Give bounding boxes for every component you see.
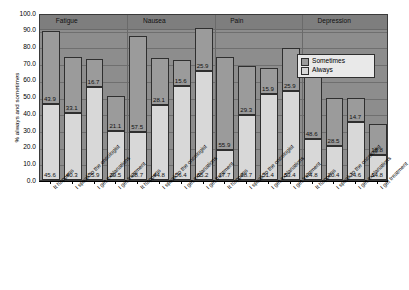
group-label-depression: Depression xyxy=(317,17,350,24)
bar-value-label-sometimes: 43.9 xyxy=(44,96,56,102)
legend-label-sometimes: Sometimes xyxy=(312,58,345,65)
legend-swatch-always-icon xyxy=(301,67,309,75)
x-axis-tick-mark xyxy=(72,181,73,184)
x-axis-tick-mark xyxy=(312,181,313,184)
x-axis-tick-mark xyxy=(94,181,95,184)
group-label-pain: Pain xyxy=(230,17,243,24)
bar-value-label-sometimes: 15.6 xyxy=(175,78,187,84)
stacked-bar: 44.828.1 xyxy=(151,58,169,180)
x-axis-tick-mark xyxy=(290,181,291,184)
y-axis-tick-label: 0.0 xyxy=(6,178,36,185)
bar-value-label-sometimes: 16.7 xyxy=(88,79,100,85)
y-axis-tick-label: 10.0 xyxy=(6,161,36,168)
bar-segment-sometimes: 33.1 xyxy=(64,57,82,112)
group-label-nausea: Nausea xyxy=(143,17,166,24)
x-axis-tick-mark xyxy=(246,181,247,184)
bar-segment-sometimes: 16.7 xyxy=(86,59,104,87)
bar-value-label-always: 45.6 xyxy=(44,172,56,178)
bar-value-label-sometimes: 48.6 xyxy=(306,131,318,137)
bar-value-label-sometimes: 15.9 xyxy=(262,86,274,92)
y-axis-tick-label: 40.0 xyxy=(6,111,36,118)
bar-segment-sometimes: 15.9 xyxy=(260,68,278,95)
x-axis-tick-mark xyxy=(181,181,182,184)
y-axis-tick-label: 30.0 xyxy=(6,128,36,135)
y-axis-tick-label: 20.0 xyxy=(6,144,36,151)
y-axis-tick-labels: 100.090.080.070.060.050.040.030.020.010.… xyxy=(3,0,36,290)
y-axis-tick-label: 70.0 xyxy=(6,61,36,68)
x-axis-tick-mark xyxy=(159,181,160,184)
y-axis-tick-label: 80.0 xyxy=(6,44,36,51)
x-axis-tick-mark xyxy=(137,181,138,184)
bar-segment-sometimes: 15.6 xyxy=(173,60,191,86)
x-axis-tick-mark xyxy=(115,181,116,184)
bar-value-label-sometimes: 57.5 xyxy=(131,124,143,130)
bar-segment-sometimes: 28.5 xyxy=(326,98,344,146)
legend-item-always: Always xyxy=(301,66,371,75)
bar-segment-sometimes: 25.9 xyxy=(195,28,213,71)
bar-segment-sometimes: 21.1 xyxy=(107,96,125,131)
bar-value-label-sometimes: 55.9 xyxy=(218,142,230,148)
gridline xyxy=(40,32,387,33)
bar-segment-sometimes: 43.9 xyxy=(42,31,60,104)
stacked-bar: 40.333.1 xyxy=(64,57,82,180)
bar-segment-sometimes: 28.1 xyxy=(151,58,169,105)
bar-segment-sometimes: 57.5 xyxy=(129,36,147,132)
chart-legend: Sometimes Always xyxy=(297,54,375,78)
x-axis-tick-mark xyxy=(355,181,356,184)
legend-swatch-sometimes-icon xyxy=(301,58,309,66)
bar-value-label-sometimes: 14.7 xyxy=(349,114,361,120)
bar-segment-sometimes: 14.7 xyxy=(347,98,365,123)
bar-value-label-sometimes: 25.9 xyxy=(197,63,209,69)
bar-value-label-sometimes: 25.9 xyxy=(284,83,296,89)
y-axis-tick-label: 50.0 xyxy=(6,94,36,101)
x-axis-tick-mark xyxy=(203,181,204,184)
bar-segment-always: 45.6 xyxy=(42,104,60,180)
bar-value-label-sometimes: 33.1 xyxy=(66,105,78,111)
x-axis-tick-mark xyxy=(268,181,269,184)
y-axis-tick-label: 100.0 xyxy=(6,11,36,18)
x-axis-tick-mark xyxy=(50,181,51,184)
bar-value-label-sometimes: 28.1 xyxy=(153,97,165,103)
bar-segment-sometimes: 55.9 xyxy=(216,57,234,150)
bar-value-label-sometimes: 21.1 xyxy=(109,123,121,129)
stacked-bar: 20.428.5 xyxy=(326,98,344,180)
group-label-fatigue: Fatigue xyxy=(56,17,78,24)
x-axis-tick-mark xyxy=(333,181,334,184)
stacked-bar: 45.643.9 xyxy=(42,31,60,180)
bar-segment-sometimes: 29.3 xyxy=(238,66,256,115)
x-axis-tick-mark xyxy=(377,181,378,184)
bar-segment-always: 44.8 xyxy=(151,105,169,180)
y-axis-tick-label: 60.0 xyxy=(6,77,36,84)
legend-label-always: Always xyxy=(312,67,333,74)
x-axis-tick-mark xyxy=(224,181,225,184)
stacked-bar: 38.729.3 xyxy=(238,66,256,180)
stacked-bar: 28.757.5 xyxy=(129,36,147,180)
bar-value-label-sometimes: 28.5 xyxy=(328,138,340,144)
bar-value-label-sometimes: 29.3 xyxy=(240,107,252,113)
gridline xyxy=(40,48,387,49)
y-axis-tick-label: 90.0 xyxy=(6,27,36,34)
legend-item-sometimes: Sometimes xyxy=(301,57,371,66)
